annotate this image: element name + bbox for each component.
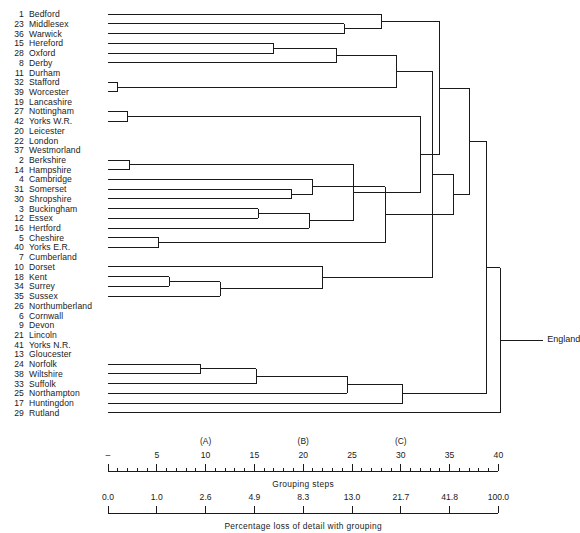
grouping-steps-axis-tick: 5 <box>154 450 159 460</box>
group-marker: (B) <box>298 436 309 446</box>
group-marker: (A) <box>200 436 211 446</box>
group-marker: (C) <box>395 436 407 446</box>
percentage-loss-axis-tick: 13.0 <box>344 492 361 502</box>
percentage-loss-axis-tick: 100.0 <box>488 492 510 502</box>
percentage-loss-axis-tick: 41.8 <box>441 492 458 502</box>
percentage-loss-axis-tick: 21.7 <box>392 492 409 502</box>
grouping-steps-axis-tick: 10 <box>201 450 211 460</box>
grouping-steps-axis-tick: 40 <box>494 450 504 460</box>
grouping-steps-axis-tick: 20 <box>298 450 308 460</box>
root-label: England <box>547 334 580 344</box>
percentage-loss-axis-tick: 0.0 <box>102 492 114 502</box>
percentage-loss-axis-tick: 4.9 <box>248 492 260 502</box>
percentage-loss-axis-tick: 8.3 <box>297 492 309 502</box>
grouping-steps-axis-tick: 25 <box>347 450 357 460</box>
grouping-steps-axis-tick: 15 <box>250 450 260 460</box>
percentage-loss-axis-tick: 2.6 <box>200 492 212 502</box>
grouping-steps-axis-tick: – <box>106 450 111 460</box>
grouping-steps-axis-tick: 30 <box>396 450 406 460</box>
dendrogram-tree <box>0 0 579 430</box>
grouping-steps-axis-caption: Grouping steps <box>243 479 363 489</box>
grouping-steps-axis-tick: 35 <box>445 450 455 460</box>
percentage-loss-axis-tick: 1.0 <box>151 492 163 502</box>
percentage-loss-axis-caption: Percentage loss of detail with grouping <box>203 521 403 531</box>
